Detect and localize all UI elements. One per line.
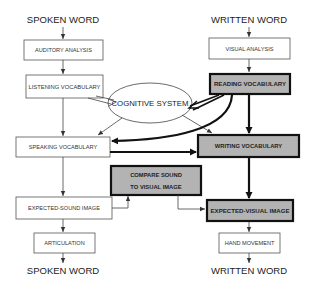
arrow-reading-to-cognitive	[189, 95, 224, 110]
articulation-label: ARTICULATION	[44, 240, 85, 246]
speaking-vocabulary-label: SPEAKING VOCABULARY	[29, 144, 98, 150]
listening-vocabulary-box: LISTENING VOCABULARY	[26, 75, 103, 98]
expected-sound-image-box: EXPECTED-SOUND IMAGE	[16, 197, 112, 219]
spoken-word-output-label: SPOKEN WORD	[27, 265, 99, 276]
written-word-input-label: WRITTEN WORD	[211, 14, 287, 25]
expected-visual-image-box: EXPECTED-VISUAL IMAGE	[207, 200, 293, 221]
compare-box-line2: TO VISUAL IMAGE	[130, 184, 181, 190]
reading-vocabulary-box: READING VOCABULARY	[210, 74, 290, 94]
auditory-analysis-label: AUDITORY ANALYSIS	[35, 47, 92, 53]
compare-sound-to-visual-image-box: COMPARE SOUND TO VISUAL IMAGE	[111, 166, 201, 195]
cognitive-system-label: COGNITIVE SYSTEM	[111, 99, 188, 108]
compare-box-line1: COMPARE SOUND	[130, 172, 182, 178]
listening-vocabulary-label: LISTENING VOCABULARY	[29, 84, 101, 90]
auditory-analysis-box: AUDITORY ANALYSIS	[24, 40, 103, 60]
articulation-box: ARTICULATION	[34, 233, 95, 253]
hand-movement-label: HAND MOVEMENT	[225, 240, 275, 246]
hand-movement-box: HAND MOVEMENT	[219, 233, 280, 253]
visual-analysis-label: VISUAL ANALYSIS	[226, 46, 274, 52]
speaking-vocabulary-box: SPEAKING VOCABULARY	[16, 137, 110, 157]
writing-vocabulary-label: WRITING VOCABULARY	[215, 143, 283, 149]
expected-sound-image-label: EXPECTED-SOUND IMAGE	[28, 205, 100, 211]
spoken-word-input-label: SPOKEN WORD	[27, 14, 99, 25]
arrow-expected-sound-to-compare	[112, 196, 128, 208]
visual-analysis-box: VISUAL ANALYSIS	[209, 38, 290, 59]
arrow-cognitive-to-speaking	[98, 118, 122, 135]
writing-vocabulary-box: WRITING VOCABULARY	[198, 135, 299, 157]
cognitive-system-node: COGNITIVE SYSTEM	[108, 83, 192, 123]
arrow-compare-to-expected-visual	[178, 195, 205, 209]
expected-visual-image-label: EXPECTED-VISUAL IMAGE	[211, 208, 290, 214]
reading-writing-model-diagram: SPOKEN WORD AUDITORY ANALYSIS LISTENING …	[0, 0, 314, 290]
reading-vocabulary-label: READING VOCABULARY	[214, 81, 286, 87]
written-word-output-label: WRITTEN WORD	[211, 265, 287, 276]
